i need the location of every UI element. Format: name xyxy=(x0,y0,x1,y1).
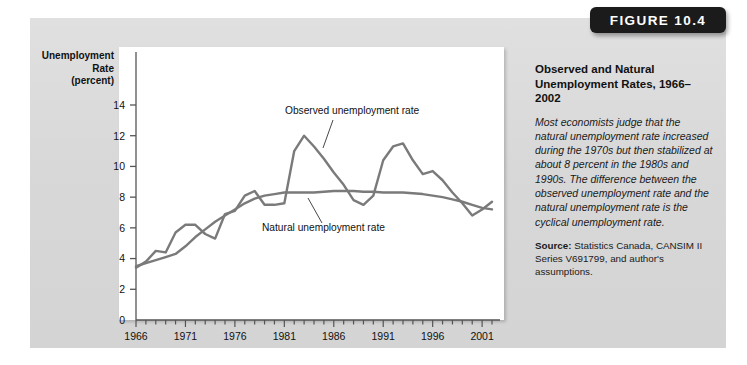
figure-description: Most economists judge that the natural u… xyxy=(535,115,715,229)
y-tick-label: 14 xyxy=(113,99,125,111)
series-line xyxy=(136,136,492,268)
annotation-leader-line xyxy=(323,120,333,148)
chart-annotations: Observed unemployment rateNatural unempl… xyxy=(262,105,420,233)
source-label: Source: xyxy=(535,240,571,251)
y-tick-label: 2 xyxy=(119,283,125,295)
y-tick-label: 10 xyxy=(113,160,125,172)
series-annotation-label: Natural unemployment rate xyxy=(262,222,385,233)
y-tick-label: 6 xyxy=(119,222,125,234)
x-tick-label: 1981 xyxy=(273,330,297,342)
figure-container: FIGURE 10.4 Unemployment Rate (percent) … xyxy=(0,0,747,365)
figure-title: Observed and Natural Unemployment Rates,… xyxy=(535,62,715,106)
x-tick-label: 1971 xyxy=(174,330,198,342)
x-tick-label: 2001 xyxy=(470,330,494,342)
y-tick-label: 0 xyxy=(119,314,125,326)
caption-column: Observed and Natural Unemployment Rates,… xyxy=(535,62,715,278)
x-tick-label: 1996 xyxy=(421,330,445,342)
x-tick-label: 1966 xyxy=(124,330,148,342)
y-tick-label: 12 xyxy=(113,130,125,142)
chart-series xyxy=(136,136,492,268)
x-tick-label: 1976 xyxy=(223,330,247,342)
chart-axes xyxy=(136,52,500,320)
x-tick-label: 1991 xyxy=(372,330,396,342)
y-axis-ticks: 02468101214 xyxy=(113,99,136,326)
series-annotation-label: Observed unemployment rate xyxy=(285,105,420,116)
annotation-leader-line xyxy=(308,198,322,223)
x-axis-ticks: 19661971197619811986199119962001 xyxy=(124,320,494,342)
figure-source: Source: Statistics Canada, CANSIM II Ser… xyxy=(535,239,715,278)
x-tick-label: 1986 xyxy=(322,330,346,342)
y-tick-label: 8 xyxy=(119,191,125,203)
y-tick-label: 4 xyxy=(119,252,125,264)
